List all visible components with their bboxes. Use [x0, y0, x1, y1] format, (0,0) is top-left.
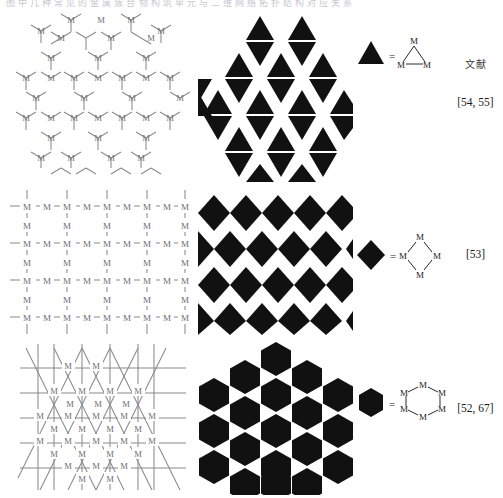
triangle-shape — [358, 41, 384, 64]
svg-text:M: M — [50, 424, 58, 434]
svg-text:M: M — [103, 221, 111, 231]
svg-text:M: M — [23, 221, 31, 231]
svg-text:M: M — [163, 202, 171, 212]
cluster-atom-label: M — [416, 232, 424, 242]
triangular-lattice-network: MM MMMM MMM MMMMM MMMM MMMMM MMMM MMM MM — [8, 340, 198, 495]
honeycomb-network: M M M M M M M M M M M M M M M M M — [8, 8, 198, 183]
reference-label: [54, 55] — [448, 96, 503, 108]
svg-text:M: M — [148, 436, 156, 446]
cluster-atom-label: M — [433, 251, 441, 261]
reference-cell-triangle: [54, 55] — [448, 8, 503, 183]
atom-label: M — [176, 93, 184, 103]
square-grid-network: MMMM MMMMM MMMMM MMMM MMMMM MMMMM MMMM M… — [8, 188, 198, 338]
legend-hexagon: = M M M M M M — [356, 340, 451, 495]
atom-label: M — [57, 33, 65, 43]
svg-text:M: M — [143, 221, 151, 231]
atom-label: M — [47, 53, 55, 63]
cluster-atom-label: M — [438, 388, 446, 398]
svg-text:M: M — [143, 202, 151, 212]
atom-label: M — [22, 113, 30, 123]
equals-sign: = — [390, 250, 396, 262]
reference-cell-diamond: [53] — [448, 188, 503, 338]
svg-text:M: M — [122, 399, 130, 409]
svg-text:M: M — [143, 295, 151, 305]
atom-label: M — [127, 15, 135, 25]
cluster-atom-label: M — [416, 270, 424, 280]
svg-text:M: M — [50, 386, 58, 396]
reference-cell-hexagon: [52, 67] — [448, 340, 503, 495]
cluster-atom-label: M — [397, 60, 405, 70]
svg-text:M: M — [63, 202, 71, 212]
svg-text:M: M — [36, 436, 44, 446]
svg-text:M: M — [50, 449, 58, 459]
svg-text:M: M — [163, 313, 171, 323]
svg-text:M: M — [94, 399, 102, 409]
svg-text:M: M — [66, 399, 74, 409]
svg-text:M: M — [106, 386, 114, 396]
svg-text:M: M — [134, 424, 142, 434]
atom-label: M — [47, 133, 55, 143]
svg-text:M: M — [23, 295, 31, 305]
atom-label: M — [97, 15, 105, 25]
svg-text:M: M — [106, 449, 114, 459]
svg-text:M: M — [103, 202, 111, 212]
atom-label: M — [70, 73, 78, 83]
figure-root: 图 中 几 种 常 见 的 金 属 簇 合 物 构 筑 单 元 与 二 维 网 … — [0, 0, 503, 498]
svg-text:M: M — [63, 295, 71, 305]
atom-label: M — [107, 153, 115, 163]
figure-top-caption: 图 中 几 种 常 见 的 金 属 簇 合 物 构 筑 单 元 与 二 维 网 … — [6, 0, 426, 8]
svg-text:M: M — [181, 313, 189, 323]
atom-label: M — [94, 113, 102, 123]
atom-label: M — [142, 113, 150, 123]
svg-text:M: M — [148, 411, 156, 421]
svg-text:M: M — [78, 386, 86, 396]
cluster-atom-label: M — [400, 404, 408, 414]
trihexagonal-triangle-tiling — [198, 8, 353, 183]
svg-text:M: M — [92, 361, 100, 371]
atom-label: M — [70, 113, 78, 123]
hexagon-shape — [359, 388, 383, 417]
svg-text:M: M — [23, 258, 31, 268]
cluster-atom-label: M — [419, 412, 427, 422]
svg-text:M: M — [181, 202, 189, 212]
row-hexagon: MM MMMM MMM MMMMM MMMM MMMMM MMMM MMM MM — [0, 340, 503, 495]
atom-label: M — [142, 133, 150, 143]
diamond-shape — [357, 240, 385, 270]
cluster-atom-label: M — [423, 60, 431, 70]
svg-text:M: M — [163, 239, 171, 249]
svg-text:M: M — [78, 474, 86, 484]
svg-text:M: M — [23, 313, 31, 323]
svg-text:M: M — [43, 276, 51, 286]
svg-text:M: M — [163, 276, 171, 286]
svg-text:M: M — [83, 313, 91, 323]
hexagonal-packing-tiling — [198, 340, 353, 495]
atom-label: M — [37, 26, 45, 36]
cluster-atom-label: M — [438, 404, 446, 414]
atom-label: M — [128, 93, 136, 103]
atom-label: M — [118, 113, 126, 123]
atom-label: M — [80, 93, 88, 103]
svg-text:M: M — [63, 221, 71, 231]
atom-label: M — [166, 73, 174, 83]
svg-text:M: M — [63, 239, 71, 249]
svg-text:M: M — [92, 436, 100, 446]
row-diamond: MMMM MMMMM MMMMM MMMM MMMMM MMMMM MMMM M… — [0, 188, 503, 338]
svg-text:M: M — [181, 221, 189, 231]
svg-text:M: M — [181, 239, 189, 249]
equals-sign: = — [389, 398, 395, 410]
svg-text:M: M — [134, 386, 142, 396]
atom-label: M — [37, 153, 45, 163]
svg-text:M: M — [103, 258, 111, 268]
atom-label: M — [47, 73, 55, 83]
legend-diamond: = M M M M — [356, 188, 451, 338]
svg-text:M: M — [120, 411, 128, 421]
legend-triangle: = M M M — [356, 8, 451, 183]
svg-text:M: M — [63, 276, 71, 286]
svg-text:M: M — [106, 424, 114, 434]
atom-label: M — [166, 113, 174, 123]
reference-label: [53] — [448, 248, 503, 260]
svg-text:M: M — [64, 461, 72, 471]
svg-text:M: M — [78, 424, 86, 434]
atom-label: M — [47, 113, 55, 123]
atom-label: M — [142, 53, 150, 63]
